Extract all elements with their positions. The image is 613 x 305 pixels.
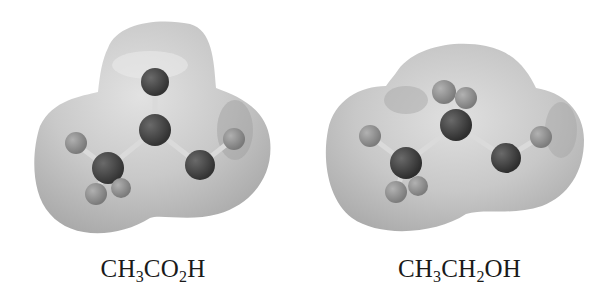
hydrogen-atom-methyl-3 [111,178,131,198]
carbon-atom-carboxyl [139,114,171,146]
hydrogen-atom-methylene-1 [432,80,456,104]
formula-caption-acetic-acid: CH3CO2H [0,255,306,283]
hydrogen-atom-methyl-1 [65,132,87,154]
carbon-atom-methylene [440,109,472,141]
figure-ethanol: CH3CH2OH [306,0,613,305]
formula-caption-ethanol: CH3CH2OH [306,255,613,283]
acetic-acid-model-image [0,0,306,255]
hydrogen-atom-hydroxyl [223,128,245,150]
ethanol-model-image [306,0,613,255]
hydrogen-atom-hydroxyl [530,126,552,148]
hydrogen-atom-methyl-3 [408,176,428,196]
hydrogen-atom-methyl-1 [359,125,381,147]
carbon-atom-methyl [390,147,422,179]
hydrogen-atom-methyl-2 [85,183,107,205]
hydrogen-atom-methyl-2 [385,181,407,203]
hydrogen-atom-methylene-2 [455,87,477,109]
oxygen-atom-carbonyl [141,68,169,96]
oxygen-atom-hydroxyl [185,150,215,180]
oxygen-atom-hydroxyl [491,143,521,173]
figure-acetic-acid: CH3CO2H [0,0,306,305]
